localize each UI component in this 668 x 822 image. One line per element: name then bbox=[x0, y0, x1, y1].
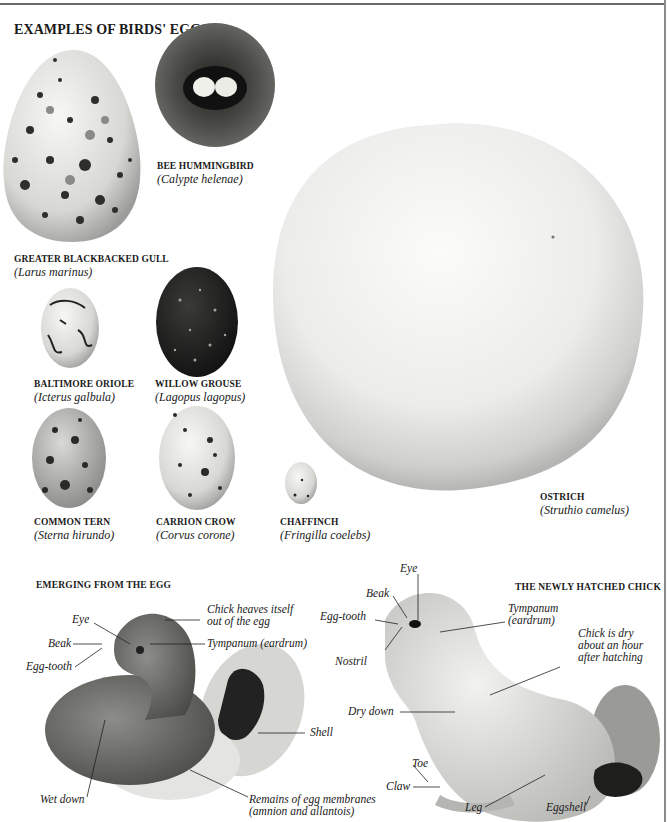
label-eye: Eye bbox=[72, 613, 89, 626]
oriole-egg bbox=[41, 288, 99, 368]
label-claw: Claw bbox=[386, 780, 410, 793]
page-edge-rule bbox=[664, 0, 666, 822]
label-hatched-nostril: Nostril bbox=[335, 655, 367, 668]
label-heaves-line2: out of the egg bbox=[207, 615, 270, 628]
caption-gull: GREATER BLACKBACKED GULL (Larus marinus) bbox=[14, 253, 169, 279]
label-beak: Beak bbox=[48, 637, 71, 650]
label-hatched-eye: Eye bbox=[400, 562, 417, 575]
caption-chaffinch: CHAFFINCH (Fringilla coelebs) bbox=[280, 516, 370, 542]
label-dry-line3: after hatching bbox=[578, 651, 643, 664]
caption-grouse: WILLOW GROUSE (Lagopus lagopus) bbox=[155, 378, 245, 404]
emerging-title: EMERGING FROM THE EGG bbox=[36, 580, 171, 590]
label-dry-down: Dry down bbox=[348, 705, 394, 718]
tern-egg bbox=[32, 408, 106, 508]
top-rule bbox=[0, 3, 664, 5]
gull-egg bbox=[4, 50, 141, 242]
label-remains-line2: (amnion and allantois) bbox=[249, 805, 354, 818]
caption-hummingbird: BEE HUMMINGBIRD (Calypte helenae) bbox=[157, 160, 254, 186]
hatched-title: THE NEWLY HATCHED CHICK bbox=[515, 582, 661, 592]
label-egg-tooth: Egg-tooth bbox=[26, 660, 72, 673]
caption-ostrich: OSTRICH (Struthio camelus) bbox=[540, 491, 629, 517]
page-heading: EXAMPLES OF BIRDS' EGGS bbox=[14, 22, 209, 38]
label-eggshell: Eggshell bbox=[546, 801, 586, 814]
caption-tern: COMMON TERN (Sterna hirundo) bbox=[34, 516, 114, 542]
grouse-egg bbox=[156, 267, 238, 377]
chaffinch-egg bbox=[285, 462, 317, 504]
label-hatched-beak: Beak bbox=[366, 587, 389, 600]
crow-egg bbox=[159, 406, 235, 510]
label-hatched-egg-tooth: Egg-tooth bbox=[320, 610, 366, 623]
label-toe: Toe bbox=[412, 757, 428, 770]
hummingbird-nest bbox=[155, 23, 275, 147]
caption-oriole: BALTIMORE ORIOLE (Icterus galbula) bbox=[34, 378, 134, 404]
label-leg: Leg bbox=[465, 801, 482, 814]
label-shell: Shell bbox=[310, 726, 333, 739]
label-tympanum: Tympanum (eardrum) bbox=[207, 637, 307, 650]
illustrations bbox=[0, 0, 668, 822]
caption-crow: CARRION CROW (Corvus corone) bbox=[156, 516, 236, 542]
ostrich-egg bbox=[273, 123, 643, 490]
label-hatched-tympanum-line2: (eardrum) bbox=[508, 614, 555, 627]
label-wet-down: Wet down bbox=[40, 793, 85, 806]
